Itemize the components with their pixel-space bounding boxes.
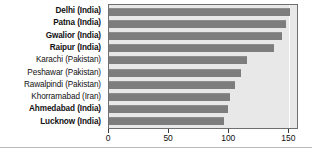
bar bbox=[109, 93, 230, 101]
bar bbox=[109, 56, 247, 64]
bar-row bbox=[109, 115, 297, 127]
bar-row bbox=[109, 42, 297, 54]
bar bbox=[109, 32, 282, 40]
category-label: Patna (India) bbox=[0, 17, 105, 29]
bar-row bbox=[109, 54, 297, 66]
bar bbox=[109, 44, 274, 52]
bar bbox=[109, 105, 228, 113]
plot-area bbox=[108, 4, 298, 129]
category-label: Delhi (India) bbox=[0, 5, 105, 17]
bottom-divider bbox=[0, 147, 312, 148]
x-tick-label: 100 bbox=[221, 133, 235, 144]
bar bbox=[109, 20, 286, 28]
bar-row bbox=[109, 66, 297, 78]
bar-row bbox=[109, 103, 297, 115]
category-label: Peshawar (Pakistan) bbox=[0, 66, 105, 78]
bar bbox=[109, 117, 224, 125]
x-tick-label: 50 bbox=[163, 133, 172, 144]
x-tick-label: 0 bbox=[106, 133, 111, 144]
category-label: Gwalior (India) bbox=[0, 30, 105, 42]
category-label: Karachi (Pakistan) bbox=[0, 54, 105, 66]
bar bbox=[109, 81, 235, 89]
category-label: Lucknow (India) bbox=[0, 116, 105, 128]
category-label: Rawalpindi (Pakistan) bbox=[0, 79, 105, 91]
bar bbox=[109, 8, 290, 16]
bar-row bbox=[109, 18, 297, 30]
bar bbox=[109, 69, 241, 77]
category-axis-labels: Delhi (India)Patna (India)Gwalior (India… bbox=[0, 5, 105, 128]
bar-row bbox=[109, 6, 297, 18]
category-label: Ahmedabad (India) bbox=[0, 103, 105, 115]
bar-row bbox=[109, 30, 297, 42]
bars-container bbox=[109, 6, 297, 127]
x-axis-tick-labels: 050100150 bbox=[0, 133, 312, 145]
bar-row bbox=[109, 79, 297, 91]
category-label: Khorramabad (Iran) bbox=[0, 91, 105, 103]
horizontal-bar-chart: Delhi (India)Patna (India)Gwalior (India… bbox=[0, 0, 312, 152]
category-label: Raipur (India) bbox=[0, 42, 105, 54]
bar-row bbox=[109, 91, 297, 103]
x-tick-label: 150 bbox=[281, 133, 295, 144]
